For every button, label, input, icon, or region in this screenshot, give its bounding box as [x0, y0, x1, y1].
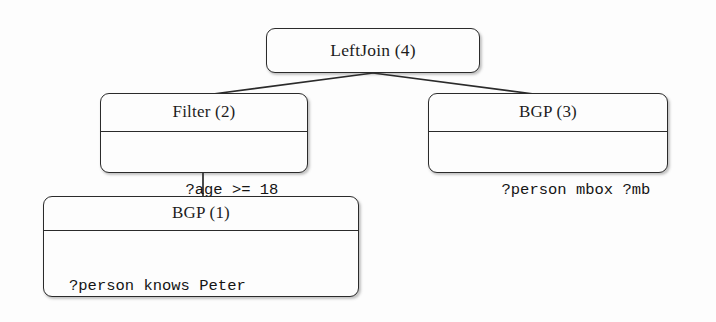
node-bgp3-triple-1: ?person mbox ?mb — [501, 181, 650, 199]
edge-leftjoin-to-bgp3 — [373, 73, 534, 94]
edge-leftjoin-to-filter — [213, 73, 373, 94]
node-bgp1-body: ?person knows Peter ?person age ?age — [44, 230, 358, 296]
node-bgp1-header: BGP (1) — [44, 197, 358, 230]
node-bgp1-triple-1: ?person knows Peter — [69, 274, 358, 299]
node-bgp1[interactable]: BGP (1) ?person knows Peter ?person age … — [43, 196, 359, 297]
node-filter-body: ?age >= 18 — [101, 131, 307, 172]
node-bgp3-header: BGP (3) — [429, 94, 667, 131]
node-bgp3[interactable]: BGP (3) ?person mbox ?mb — [428, 93, 668, 173]
node-filter-header: Filter (2) — [101, 94, 307, 131]
node-leftjoin[interactable]: LeftJoin (4) — [266, 28, 480, 73]
node-filter[interactable]: Filter (2) ?age >= 18 — [100, 93, 308, 173]
diagram-canvas: LeftJoin (4) Filter (2) ?age >= 18 BGP (… — [0, 0, 716, 322]
node-bgp3-body: ?person mbox ?mb — [429, 131, 667, 172]
node-leftjoin-header: LeftJoin (4) — [267, 29, 479, 71]
